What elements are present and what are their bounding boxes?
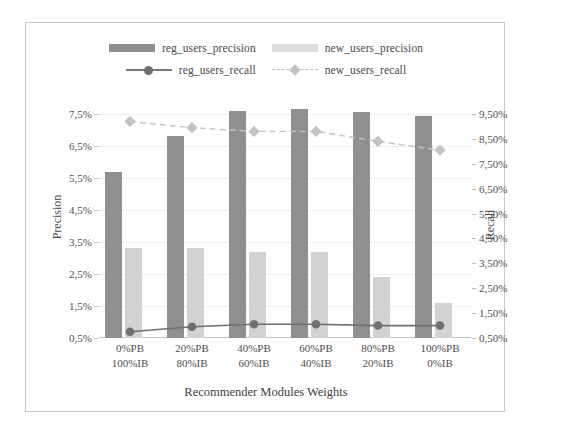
x-axis-tick-label: 80%PB20%IB — [347, 341, 409, 371]
y-axis-tick-mark-left — [94, 242, 98, 243]
legend-swatch-bar-icon — [272, 44, 318, 52]
y-axis-tick-mark-left — [94, 306, 98, 307]
marker-reg-users-recall — [436, 321, 445, 330]
y-axis-tick-mark-left — [94, 274, 98, 275]
y-axis-tick-mark-right — [472, 263, 476, 264]
x-axis-title: Recommender Modules Weights — [26, 385, 506, 400]
y-axis-tick-label-right: 2,50% — [479, 283, 507, 294]
chart-legend: reg_users_precision new_users_precision … — [26, 37, 506, 81]
y-axis-tick-mark-right — [472, 313, 476, 314]
line-series-layer — [99, 114, 471, 338]
y-axis-tick-mark-left — [94, 146, 98, 147]
y-axis-tick-label-right: 9,50% — [479, 109, 507, 120]
legend-swatch-line-icon — [126, 65, 172, 75]
plot-area: 7,5%6,5%5,5%4,5%3,5%2,5%1,5%0,5%9,50%8,5… — [99, 114, 471, 338]
y-axis-tick-mark-right — [472, 338, 476, 339]
chart-figure: reg_users_precision new_users_precision … — [25, 22, 505, 412]
y-axis-tick-label-right: 3,50% — [479, 258, 507, 269]
legend-swatch-bar-icon — [109, 44, 155, 52]
marker-reg-users-recall — [126, 327, 135, 336]
y-axis-tick-label-right: 0,50% — [479, 333, 507, 344]
y-axis-tick-mark-right — [472, 238, 476, 239]
y-axis-tick-label-left: 7,5% — [69, 109, 92, 120]
legend-item-reg-users-precision[interactable]: reg_users_precision — [109, 42, 256, 54]
x-axis-tick-label: 40%PB60%IB — [223, 341, 285, 371]
x-axis-tick-label: 60%PB40%IB — [285, 341, 347, 371]
y-axis-tick-mark-right — [472, 114, 476, 115]
y-axis-tick-mark-left — [94, 114, 98, 115]
y-axis-title-left: Precision — [50, 195, 65, 240]
y-axis-tick-mark-left — [94, 210, 98, 211]
y-axis-tick-mark-right — [472, 164, 476, 165]
y-axis-tick-mark-right — [472, 214, 476, 215]
line-new-users-recall — [130, 122, 440, 151]
y-axis-tick-label-left: 3,5% — [69, 237, 92, 248]
y-axis-tick-label-right: 8,50% — [479, 133, 507, 144]
x-axis-tick-label-line: 40%IB — [285, 356, 347, 371]
legend-item-reg-users-recall[interactable]: reg_users_recall — [126, 64, 256, 76]
y-axis-tick-label-left: 2,5% — [69, 269, 92, 280]
y-axis-tick-label-right: 4,50% — [479, 233, 507, 244]
marker-new-users-recall — [372, 136, 383, 147]
y-axis-tick-label-left: 6,5% — [69, 141, 92, 152]
legend-row-precision: reg_users_precision new_users_precision — [26, 37, 506, 59]
x-axis-tick-label-line: 80%PB — [347, 341, 409, 356]
y-axis-tick-mark-right — [472, 139, 476, 140]
marker-new-users-recall — [248, 126, 259, 137]
marker-new-users-recall — [434, 144, 445, 155]
y-axis-tick-label-left: 5,5% — [69, 173, 92, 184]
marker-reg-users-recall — [312, 320, 321, 329]
marker-new-users-recall — [124, 116, 135, 127]
y-axis-tick-label-left: 0,5% — [69, 333, 92, 344]
x-axis-tick-label-line: 100%PB — [409, 341, 471, 356]
marker-new-users-recall — [310, 126, 321, 137]
marker-reg-users-recall — [188, 323, 197, 332]
x-axis-tick-label-line: 0%PB — [99, 341, 161, 356]
x-axis-tick-label-line: 40%PB — [223, 341, 285, 356]
legend-label: reg_users_recall — [179, 64, 256, 76]
legend-item-new-users-precision[interactable]: new_users_precision — [272, 42, 423, 54]
y-axis-tick-label-left: 4,5% — [69, 205, 92, 216]
y-axis-tick-mark-left — [94, 338, 98, 339]
y-axis-tick-mark-right — [472, 189, 476, 190]
y-axis-tick-label-left: 1,5% — [69, 301, 92, 312]
legend-item-new-users-recall[interactable]: new_users_recall — [272, 64, 406, 76]
x-axis-tick-label-line: 0%IB — [409, 356, 471, 371]
legend-label: reg_users_precision — [162, 42, 256, 54]
y-axis-tick-label-right: 5,50% — [479, 208, 507, 219]
y-axis-tick-label-right: 7,50% — [479, 158, 507, 169]
y-axis-tick-label-right: 6,50% — [479, 183, 507, 194]
x-axis-tick-label-line: 20%PB — [161, 341, 223, 356]
line-reg-users-recall — [130, 324, 440, 332]
x-axis-tick-label-line: 100%IB — [99, 356, 161, 371]
marker-reg-users-recall — [374, 321, 383, 330]
x-axis-tick-label-line: 20%IB — [347, 356, 409, 371]
marker-new-users-recall — [186, 122, 197, 133]
legend-label: new_users_precision — [325, 42, 423, 54]
y-axis-tick-mark-right — [472, 288, 476, 289]
x-axis-category-labels: 0%PB100%IB20%PB80%IB40%PB60%IB60%PB40%IB… — [99, 341, 471, 383]
y-axis-tick-label-right: 1,50% — [479, 308, 507, 319]
marker-reg-users-recall — [250, 320, 259, 329]
x-axis-tick-label-line: 60%IB — [223, 356, 285, 371]
legend-label: new_users_recall — [325, 64, 406, 76]
legend-row-recall: reg_users_recall new_users_recall — [26, 59, 506, 81]
x-axis-tick-label-line: 80%IB — [161, 356, 223, 371]
legend-swatch-line-icon — [272, 65, 318, 75]
x-axis-tick-label: 100%PB0%IB — [409, 341, 471, 371]
x-axis-tick-label: 20%PB80%IB — [161, 341, 223, 371]
x-axis-tick-label-line: 60%PB — [285, 341, 347, 356]
y-axis-tick-mark-left — [94, 178, 98, 179]
x-axis-tick-label: 0%PB100%IB — [99, 341, 161, 371]
